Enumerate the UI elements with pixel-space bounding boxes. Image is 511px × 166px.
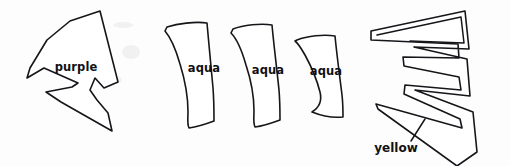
smudge-mark [113,22,133,28]
aqua-piece-1-label: aqua [188,61,220,75]
diagram-canvas: purple aqua aqua aqua yellow [0,0,511,166]
smudge-mark [122,45,140,59]
aqua-piece-1-outline[interactable] [165,22,214,128]
yellow-piece-label: yellow [374,141,418,155]
aqua-piece-2-label: aqua [252,63,284,77]
purple-piece-label: purple [55,60,98,74]
aqua-piece-3-label: aqua [310,64,342,78]
pattern-pieces-artwork [0,0,511,166]
